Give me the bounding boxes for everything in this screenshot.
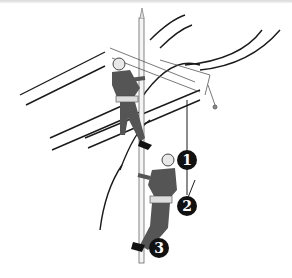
pole-climbing-illustration xyxy=(0,0,292,278)
lower-worker xyxy=(131,154,177,252)
callout-2: 2 xyxy=(177,196,197,216)
callout-1: 1 xyxy=(177,150,197,170)
upper-worker xyxy=(112,58,152,150)
callout-3: 3 xyxy=(149,238,169,258)
